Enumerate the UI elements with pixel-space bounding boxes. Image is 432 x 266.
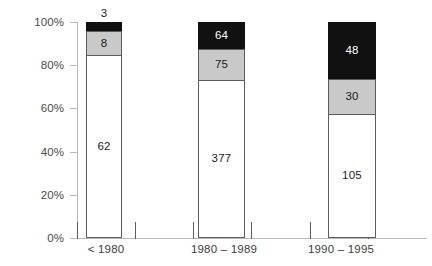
y-axis-label-60: 60% — [4, 102, 64, 114]
x-axis-tick-2 — [193, 222, 194, 239]
y-axis-label-40: 40% — [4, 146, 64, 158]
y-axis-tick-80 — [70, 65, 78, 66]
x-axis-category-label-0: < 1980 — [88, 243, 125, 255]
bar-value-black-1: 64 — [215, 30, 228, 42]
bar-value-black-2: 48 — [345, 45, 358, 57]
y-axis-tick-40 — [70, 152, 78, 153]
bar-segment-gray-2: 30 — [328, 79, 376, 114]
bar-value-white-1: 377 — [212, 153, 232, 165]
y-axis-line — [77, 22, 78, 239]
bar-lt-1980[interactable]: 8 62 — [86, 22, 122, 238]
y-axis-label-80: 80% — [4, 59, 64, 71]
bar-value-gray-0: 8 — [101, 38, 108, 50]
bar-segment-black-2: 48 — [328, 22, 376, 79]
bar-value-black-0: 3 — [101, 7, 108, 19]
x-axis-category-label-1: 1980 – 1989 — [191, 243, 257, 255]
y-axis-tick-60 — [70, 108, 78, 109]
bar-segment-gray-0: 8 — [86, 31, 122, 55]
bar-segment-white-2: 105 — [328, 114, 376, 238]
bar-value-white-0: 62 — [97, 141, 110, 153]
y-axis-label-100: 100% — [4, 16, 64, 28]
bar-segment-black-1: 64 — [198, 22, 245, 49]
x-axis-tick-4 — [310, 222, 311, 239]
x-axis-category-label-2: 1990 – 1995 — [308, 243, 374, 255]
bar-segment-white-1: 377 — [198, 80, 245, 238]
bar-segment-black-0 — [86, 22, 122, 31]
x-axis-tick-3 — [251, 222, 252, 239]
bar-value-gray-1: 75 — [215, 59, 228, 71]
y-axis-label-0: 0% — [4, 232, 64, 244]
bar-1980-1989[interactable]: 64 75 377 — [198, 22, 245, 238]
y-axis-label-20: 20% — [4, 189, 64, 201]
stacked-bar-chart: 100% 80% 60% 40% 20% 0% < 1980 1980 – 19… — [0, 0, 432, 266]
bar-value-white-2: 105 — [342, 170, 362, 182]
y-axis-tick-20 — [70, 195, 78, 196]
bar-segment-gray-1: 75 — [198, 49, 245, 80]
bar-1990-1995[interactable]: 48 30 105 — [328, 22, 376, 238]
x-axis-tick-0 — [77, 222, 78, 239]
x-axis-line — [77, 238, 427, 239]
bar-segment-white-0: 62 — [86, 55, 122, 238]
x-axis-tick-1 — [135, 222, 136, 239]
y-axis-tick-100 — [70, 22, 78, 23]
bar-value-gray-2: 30 — [345, 91, 358, 103]
